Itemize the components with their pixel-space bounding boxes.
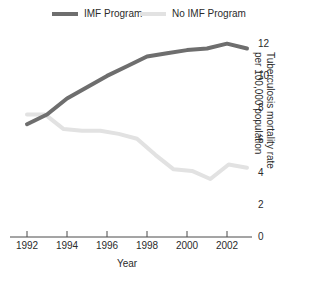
y-axis-title-line2: per 100,000 population: [252, 52, 264, 222]
series-line-imf-program: [27, 44, 247, 125]
plot-area: [0, 26, 260, 246]
legend-item-imf-program: IMF Program: [52, 8, 142, 19]
y-axis-title: Tuberculosis mortality rate per 100,000 …: [252, 52, 276, 222]
y-axis-title-line1: Tuberculosis mortality rate: [264, 52, 276, 222]
y-tick-label: 12: [258, 38, 278, 49]
x-tick-label: 1992: [10, 240, 44, 251]
legend-label-imf-program: IMF Program: [84, 8, 142, 19]
chart-figure: IMF Program No IMF Program 121086420 199…: [0, 0, 320, 286]
legend-label-no-imf-program: No IMF Program: [172, 8, 246, 19]
legend-item-no-imf-program: No IMF Program: [140, 8, 246, 19]
chart-canvas: [0, 26, 260, 246]
x-tick-label: 1994: [50, 240, 84, 251]
x-tick-label: 1996: [90, 240, 124, 251]
x-tick-label: 2000: [170, 240, 204, 251]
x-tick-marks: [27, 231, 227, 237]
legend-swatch-no-imf-program: [140, 12, 166, 16]
x-axis-title: Year: [82, 258, 172, 269]
x-tick-label: 2002: [210, 240, 244, 251]
y-tick-label: 0: [258, 231, 278, 242]
series-line-no-imf-program: [27, 115, 247, 179]
x-tick-label: 1998: [130, 240, 164, 251]
legend-swatch-imf-program: [52, 12, 78, 16]
